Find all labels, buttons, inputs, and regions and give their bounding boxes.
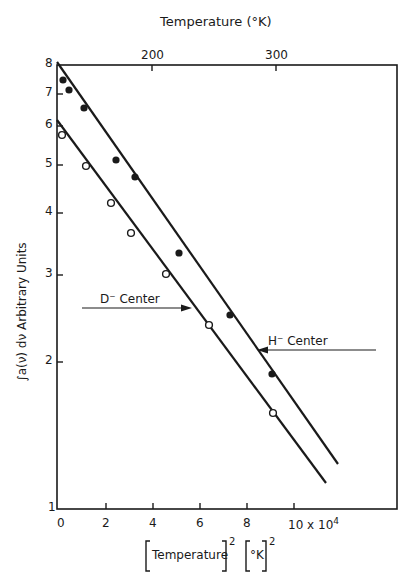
top-tick-label-200: 200 (141, 48, 164, 62)
h-center-points (59, 76, 275, 377)
top-tick-label-300: 300 (265, 48, 288, 62)
plot-frame (57, 65, 397, 509)
x-tick-label-10-base: 10 x 10 (288, 518, 333, 532)
h-center-label: H⁻ Center (268, 334, 328, 348)
x-tick-label-2: 2 (102, 516, 110, 530)
y-tick-label-2: 2 (45, 353, 53, 367)
top-axis-title: Temperature (°K) (160, 14, 272, 29)
x-tick-label-10: 10 x 104 (288, 516, 339, 532)
x-tick-label-10-exp: 4 (333, 516, 339, 526)
y-tick-label-1: 1 (48, 500, 56, 514)
y-tick-label-4: 4 (45, 204, 53, 218)
x-axis-title-exp-1: 2 (229, 536, 235, 547)
x-axis-title-unit: °K (250, 548, 264, 562)
x-tick-label-4: 4 (149, 516, 157, 530)
chart-area: Temperature (°K) 200 300 8 7 6 5 4 3 2 1… (0, 0, 410, 584)
plot-svg (0, 0, 410, 584)
x-ticks (106, 503, 294, 509)
x-tick-label-0: 0 (57, 516, 65, 530)
x-axis-title-exp-2: 2 (269, 536, 275, 547)
y-tick-label-6: 6 (45, 117, 53, 131)
y-tick-label-7: 7 (45, 85, 53, 99)
x-axis-title-main: Temperature (152, 548, 228, 562)
x-tick-label-6: 6 (196, 516, 204, 530)
d-center-label: D⁻ Center (100, 292, 160, 306)
y-tick-label-5: 5 (45, 156, 53, 170)
d-center-arrowhead-icon (181, 305, 192, 312)
h-center-fit-line (57, 62, 338, 464)
y-tick-label-3: 3 (45, 266, 53, 280)
y-axis-title: ∫a(ν) dν Arbitrary Units (15, 242, 29, 381)
d-center-fit-line (57, 120, 326, 483)
y-tick-label-8: 8 (45, 56, 53, 70)
x-tick-label-8: 8 (243, 516, 251, 530)
h-center-arrowhead-icon (257, 347, 268, 354)
